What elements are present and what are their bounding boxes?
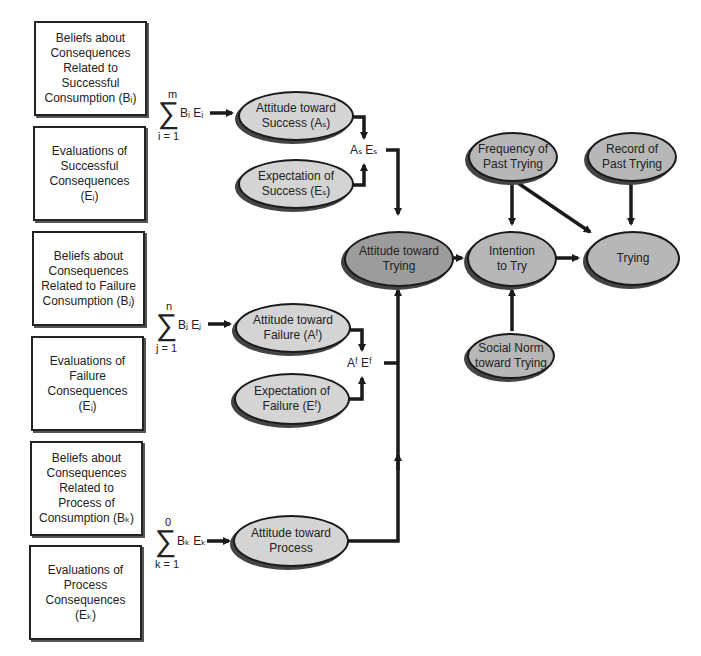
evaluations-success-label: Evaluations of Successful Consequences (… [49, 144, 129, 204]
sum-lower: i = 1 [158, 130, 179, 142]
node-label: Social Norm toward Trying [475, 341, 547, 371]
sum-process: 0 ∑ Bₖ Eₖ k = 1 [155, 516, 205, 576]
beliefs-failure-label: Beliefs about Consequences Related to Fa… [41, 249, 136, 309]
beliefs-process-label: Beliefs about Consequences Related to Pr… [36, 451, 137, 526]
sigma-icon: ∑ [155, 526, 176, 556]
beliefs-success-box: Beliefs about Consequences Related to Su… [34, 21, 147, 116]
product-failure: Aᶠ Eᶠ [347, 356, 372, 370]
node-label: Frequency of Past Trying [478, 142, 548, 172]
sum-term: Bₖ Eₖ [177, 534, 206, 548]
sum-term: Bᵢ Eᵢ [180, 106, 203, 120]
social-norm-node: Social Norm toward Trying [467, 333, 555, 379]
node-label: Record of Past Trying [602, 142, 662, 172]
node-label: Attitude toward Trying [359, 244, 439, 274]
sum-failure: n ∑ Bⱼ Eⱼ j = 1 [156, 300, 206, 360]
sigma-icon: ∑ [158, 98, 179, 128]
sum-success: m ∑ Bᵢ Eᵢ i = 1 [158, 88, 208, 148]
expectation-success-node: Expectation of Success (Eₛ) [238, 159, 354, 209]
theory-of-trying-diagram: Beliefs about Consequences Related to Su… [0, 0, 701, 656]
attitude-failure-node: Attitude toward Failure (Aᶠ) [235, 303, 351, 353]
attitude-success-node: Attitude toward Success (Aₛ) [238, 91, 354, 141]
evaluations-failure-box: Evaluations of Failure Consequences (Eⱼ) [31, 336, 144, 431]
sum-lower: j = 1 [156, 342, 177, 354]
frequency-node: Frequency of Past Trying [468, 132, 558, 182]
sum-term: Bⱼ Eⱼ [178, 318, 201, 332]
intention-node: Intention to Try [467, 231, 557, 287]
node-label: Attitude toward Success (Aₛ) [256, 101, 336, 131]
sum-lower: k = 1 [155, 558, 179, 570]
attitude-trying-node: Attitude toward Trying [344, 231, 454, 287]
node-label: Intention to Try [489, 244, 535, 274]
sigma-icon: ∑ [156, 310, 177, 340]
beliefs-success-label: Beliefs about Consequences Related to Su… [45, 31, 137, 106]
node-label: Expectation of Failure (Eᶠ) [254, 384, 330, 414]
trying-node: Trying [586, 231, 680, 286]
expectation-failure-node: Expectation of Failure (Eᶠ) [234, 373, 350, 425]
node-label: Attitude toward Process [251, 526, 331, 556]
node-label: Expectation of Success (Eₛ) [258, 169, 334, 199]
evaluations-process-label: Evaluations of Process Consequences (Eₖ) [45, 563, 125, 623]
evaluations-failure-label: Evaluations of Failure Consequences (Eⱼ) [47, 354, 127, 414]
record-node: Record of Past Trying [587, 132, 677, 182]
beliefs-failure-box: Beliefs about Consequences Related to Fa… [32, 231, 145, 326]
product-success: Aₛ Eₛ [350, 143, 377, 157]
node-label: Trying [617, 251, 650, 266]
attitude-process-node: Attitude toward Process [233, 515, 349, 567]
beliefs-process-box: Beliefs about Consequences Related to Pr… [30, 441, 143, 536]
evaluations-process-box: Evaluations of Process Consequences (Eₖ) [29, 545, 142, 640]
evaluations-success-box: Evaluations of Successful Consequences (… [33, 126, 146, 221]
node-label: Attitude toward Failure (Aᶠ) [253, 313, 333, 343]
